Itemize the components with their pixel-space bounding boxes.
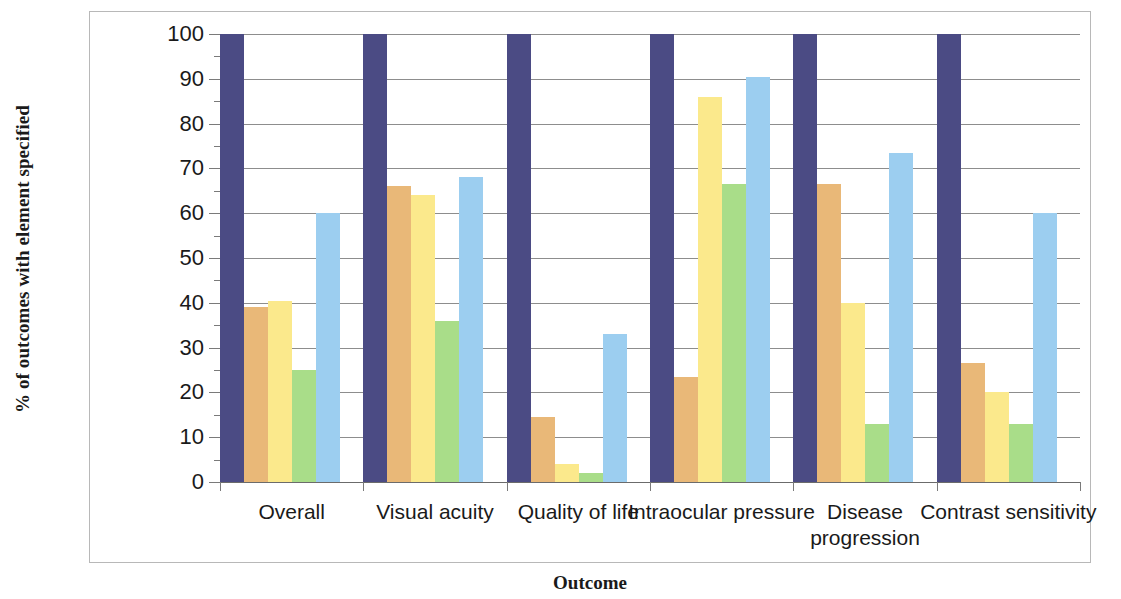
y-axis-tick-label: 50 xyxy=(180,245,204,271)
bar xyxy=(363,34,387,482)
bar xyxy=(937,34,961,482)
bar xyxy=(459,177,483,482)
bar xyxy=(244,307,268,482)
bar xyxy=(1009,424,1033,482)
y-axis-tick xyxy=(209,124,220,125)
bar xyxy=(579,473,603,482)
bar xyxy=(841,303,865,482)
y-axis-tick-label: 80 xyxy=(180,111,204,137)
bar xyxy=(1033,213,1057,482)
y-axis-tick-label: 30 xyxy=(180,335,204,361)
x-axis-tick xyxy=(220,482,221,491)
bar xyxy=(220,34,244,482)
bar xyxy=(674,377,698,482)
bar xyxy=(865,424,889,482)
bar xyxy=(316,213,340,482)
bar-group xyxy=(363,34,506,482)
y-axis-tick xyxy=(209,213,220,214)
bar xyxy=(292,370,316,482)
bar xyxy=(435,321,459,482)
x-axis-tick-label: Contrast sensitivity xyxy=(913,499,1103,525)
y-axis-tick-label: 70 xyxy=(180,155,204,181)
x-axis-tick xyxy=(937,482,938,491)
bar-group-bars xyxy=(650,34,793,482)
y-axis-tick xyxy=(209,392,220,393)
y-axis-title: % of outcomes with element specified xyxy=(12,24,34,494)
x-axis-tick xyxy=(650,482,651,491)
bar xyxy=(507,34,531,482)
y-axis-tick-label: 10 xyxy=(180,424,204,450)
y-axis-tick-label: 0 xyxy=(192,469,204,495)
bar-group-bars xyxy=(937,34,1080,482)
y-axis-tick-label: 100 xyxy=(167,21,204,47)
y-axis-tick-label: 20 xyxy=(180,379,204,405)
bar-group xyxy=(937,34,1080,482)
bar xyxy=(531,417,555,482)
y-axis-tick xyxy=(209,348,220,349)
y-axis-tick xyxy=(209,258,220,259)
bar xyxy=(411,195,435,482)
bar xyxy=(746,77,770,482)
bar xyxy=(793,34,817,482)
bar xyxy=(268,301,292,482)
bar xyxy=(889,153,913,482)
y-axis-tick xyxy=(209,482,220,483)
bar xyxy=(698,97,722,482)
y-axis-tick xyxy=(209,34,220,35)
bar xyxy=(555,464,579,482)
y-axis-tick-label: 40 xyxy=(180,290,204,316)
bar xyxy=(603,334,627,482)
bar-group-bars xyxy=(507,34,650,482)
y-axis-tick xyxy=(209,79,220,80)
y-axis-tick-label: 60 xyxy=(180,200,204,226)
bar-group xyxy=(220,34,363,482)
bar-group-bars xyxy=(363,34,506,482)
x-axis-tick xyxy=(507,482,508,491)
bar xyxy=(961,363,985,482)
plot-area: 1009080706050403020100OverallVisual acui… xyxy=(220,34,1080,482)
chart-frame: 1009080706050403020100OverallVisual acui… xyxy=(89,11,1091,563)
bar-group-bars xyxy=(220,34,363,482)
y-axis-tick-label: 90 xyxy=(180,66,204,92)
bar-group xyxy=(650,34,793,482)
y-axis-tick xyxy=(209,437,220,438)
bar-group xyxy=(507,34,650,482)
bar xyxy=(387,186,411,482)
x-axis-tick xyxy=(1080,482,1081,491)
x-axis-tick xyxy=(793,482,794,491)
bar-group xyxy=(793,34,936,482)
bar xyxy=(817,184,841,482)
bar xyxy=(650,34,674,482)
bar xyxy=(985,392,1009,482)
bar-group-bars xyxy=(793,34,936,482)
y-axis-tick xyxy=(209,168,220,169)
bar xyxy=(722,184,746,482)
bar-chart-figure: % of outcomes with element specified 100… xyxy=(0,0,1121,599)
y-axis-tick xyxy=(209,303,220,304)
x-axis-title: Outcome xyxy=(89,572,1091,594)
x-axis-tick xyxy=(363,482,364,491)
